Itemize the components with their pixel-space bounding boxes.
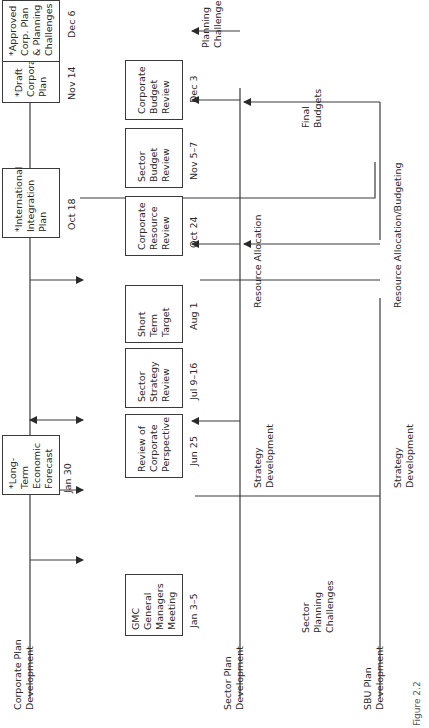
box-sector-budget-review: Sector Budget Review	[125, 128, 183, 188]
figure-caption: Figure 2.2	[412, 681, 422, 726]
box-corporate-resource-review: Corporate Resource Review	[125, 196, 183, 256]
process-diagram: Corporate Plan Development Sector Plan D…	[0, 0, 429, 728]
flow-text: Sector	[300, 581, 312, 633]
box-corporate-budget-review: Corporate Budget Review	[125, 60, 183, 120]
date-oct-24: Oct 24	[188, 216, 199, 248]
label-planning-challenges: Planning Challenges	[200, 0, 224, 48]
lane-sbu-plan-development: SBU Plan Development	[362, 646, 386, 710]
label-resource-allocation-budgeting: Resource Allocation/Budgeting	[392, 163, 404, 308]
box-text: Corporate	[148, 420, 160, 472]
date-aug-1: Aug 1	[188, 302, 199, 330]
date-nov-14: Nov 14	[66, 66, 77, 100]
lane-label: SBU Plan	[362, 646, 374, 710]
box-text: Meeting	[166, 580, 178, 630]
box-text: Sector	[136, 354, 148, 402]
date-nov-5-7: Nov 5–7	[188, 142, 199, 180]
box-text: *International	[13, 174, 25, 232]
lane-sector-plan-development: Sector Plan Development	[222, 646, 246, 710]
date-oct-18: Oct 18	[66, 198, 77, 230]
box-text: Corporate	[136, 202, 148, 250]
date-jun-25: Jun 25	[188, 436, 199, 466]
box-text: Term	[148, 291, 160, 337]
box-text: Plan	[37, 174, 49, 232]
date-dec-6: Dec 6	[66, 11, 77, 38]
box-text: & Planning	[31, 6, 43, 56]
box-text: Corporate	[136, 66, 148, 114]
box-text: Forecast	[43, 441, 55, 489]
flow-text: Development	[264, 424, 276, 488]
label-final-budgets: Final Budgets	[300, 89, 324, 128]
box-text: Challenges	[43, 6, 55, 56]
lane-label: Sector Plan	[222, 646, 234, 710]
box-text: *Approved	[7, 6, 19, 56]
box-text: Integration	[25, 174, 37, 232]
connector-lines-main	[0, 0, 429, 728]
date-jan-30: Jan 30	[62, 463, 73, 493]
lane-label: Development	[24, 639, 36, 710]
flow-text: Planning	[200, 0, 212, 48]
box-text: Strategy	[148, 354, 160, 402]
flow-text: Final	[300, 89, 312, 128]
box-text: Short	[136, 291, 148, 337]
box-text: GMC	[130, 580, 142, 630]
box-international-integration-plan: *International Integration Plan	[2, 168, 60, 238]
label-strategy-development-sbu: Strategy Development	[392, 424, 416, 488]
lane-label: Corporate Plan	[12, 639, 24, 710]
flow-text: Budgets	[312, 89, 324, 128]
box-text: Target	[160, 291, 172, 337]
flow-text: Strategy	[252, 424, 264, 488]
box-text: Budget	[148, 134, 160, 182]
box-text: Perspective	[160, 420, 172, 472]
flow-text: Strategy	[392, 424, 404, 488]
box-text: Budget	[148, 66, 160, 114]
box-text: Economic	[31, 441, 43, 489]
box-text: Sector	[136, 134, 148, 182]
box-text: Resource	[148, 202, 160, 250]
box-gmc-general-managers-meeting: GMC General Managers Meeting	[125, 574, 183, 636]
box-long-term-economic-forecast: *Long- Term Economic Forecast	[2, 435, 60, 495]
box-approved-corp-plan: *Approved Corp. Plan & Planning Challeng…	[2, 0, 60, 62]
box-text: Review	[160, 354, 172, 402]
box-text: Corp. Plan	[19, 6, 31, 56]
flow-text: Development	[404, 424, 416, 488]
box-text: Term	[19, 441, 31, 489]
date-dec-3: Dec 3	[188, 76, 199, 103]
label-strategy-development-sector: Strategy Development	[252, 424, 276, 488]
box-sector-strategy-review: Sector Strategy Review	[125, 348, 183, 408]
box-text: General	[142, 580, 154, 630]
box-text: *Long-	[7, 441, 19, 489]
lane-corporate-plan-development: Corporate Plan Development	[12, 639, 36, 710]
box-text: Managers	[154, 580, 166, 630]
box-text: Review	[160, 66, 172, 114]
box-review-of-corporate-perspective: Review of Corporate Perspective	[125, 414, 183, 478]
label-sector-planning-challenges: Sector Planning Challenges	[300, 581, 336, 633]
flow-text: Challenges	[212, 0, 224, 48]
flow-text: Planning	[312, 581, 324, 633]
date-jan-3-5: Jan 3–5	[188, 593, 199, 628]
flow-text: Challenges	[324, 581, 336, 633]
box-text: Review	[160, 202, 172, 250]
lane-label: Development	[374, 646, 386, 710]
box-text: Review	[160, 134, 172, 182]
box-short-term-target: Short Term Target	[125, 285, 183, 343]
box-text: Review of	[136, 420, 148, 472]
label-resource-allocation: Resource Allocation	[252, 215, 264, 308]
lane-label: Development	[234, 646, 246, 710]
date-jul-9-16: Jul 9–16	[188, 363, 199, 400]
